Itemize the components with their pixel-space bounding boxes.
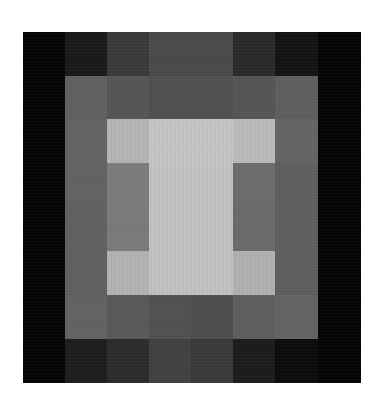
- grid-cell-r2-c7: [318, 119, 361, 163]
- grid-cell-r3-c1: [65, 163, 107, 207]
- grid-cell-r4-c2: [107, 207, 149, 251]
- grid-cell-r7-c5: [233, 339, 275, 383]
- grid-cell-r6-c4: [191, 295, 233, 339]
- grid-cell-r7-c2: [107, 339, 149, 383]
- grid-cell-r3-c0: [23, 163, 65, 207]
- grid-cell-r5-c6: [275, 251, 318, 295]
- grid-cell-r0-c3: [149, 32, 191, 76]
- grid-cell-r0-c2: [107, 32, 149, 76]
- grid-cell-r2-c4: [191, 119, 233, 163]
- grid-cell-r4-c3: [149, 207, 191, 251]
- grid-cell-r6-c5: [233, 295, 275, 339]
- grid-cell-r5-c5: [233, 251, 275, 295]
- grid-cell-r7-c6: [275, 339, 318, 383]
- grid-cell-r2-c3: [149, 119, 191, 163]
- grid-cell-r0-c6: [275, 32, 318, 76]
- grid-cell-r5-c2: [107, 251, 149, 295]
- grayscale-grid-artwork: [23, 32, 361, 383]
- grid-cell-r2-c1: [65, 119, 107, 163]
- grid-cell-r1-c3: [149, 76, 191, 119]
- grid-cell-r6-c7: [318, 295, 361, 339]
- grid-cell-r4-c1: [65, 207, 107, 251]
- grid-cell-r6-c6: [275, 295, 318, 339]
- grid-cell-r0-c4: [191, 32, 233, 76]
- grid-cell-r0-c7: [318, 32, 361, 76]
- grid-cell-r1-c6: [275, 76, 318, 119]
- grid-cell-r6-c2: [107, 295, 149, 339]
- grid-cell-r7-c0: [23, 339, 65, 383]
- grid-cell-r3-c2: [107, 163, 149, 207]
- grid-cell-r1-c5: [233, 76, 275, 119]
- grid-cell-r0-c1: [65, 32, 107, 76]
- grid-cell-r6-c3: [149, 295, 191, 339]
- grid-cell-r7-c3: [149, 339, 191, 383]
- grid-cell-r3-c4: [191, 163, 233, 207]
- grid-cell-r7-c1: [65, 339, 107, 383]
- grid-cell-r1-c2: [107, 76, 149, 119]
- grid-cell-r3-c7: [318, 163, 361, 207]
- grid-cell-r2-c0: [23, 119, 65, 163]
- grid-cell-r5-c3: [149, 251, 191, 295]
- grid-cell-r0-c5: [233, 32, 275, 76]
- grid-cell-r2-c2: [107, 119, 149, 163]
- grid-cell-r2-c6: [275, 119, 318, 163]
- grid-cell-r6-c0: [23, 295, 65, 339]
- grid-cell-r4-c4: [191, 207, 233, 251]
- grid-cell-r6-c1: [65, 295, 107, 339]
- grid-cell-r7-c7: [318, 339, 361, 383]
- grid-cell-r4-c7: [318, 207, 361, 251]
- grid-cell-r3-c3: [149, 163, 191, 207]
- grid-cell-r5-c4: [191, 251, 233, 295]
- grid-cell-r1-c4: [191, 76, 233, 119]
- canvas: [0, 0, 385, 411]
- grid-cell-r2-c5: [233, 119, 275, 163]
- grid-cell-r3-c5: [233, 163, 275, 207]
- grid-cell-r1-c1: [65, 76, 107, 119]
- grid-cell-r4-c0: [23, 207, 65, 251]
- grid-cell-r1-c7: [318, 76, 361, 119]
- grid-cell-r4-c6: [275, 207, 318, 251]
- grid-cell-r5-c0: [23, 251, 65, 295]
- grid-cell-r5-c7: [318, 251, 361, 295]
- grid-cell-r7-c4: [191, 339, 233, 383]
- grid-cell-r1-c0: [23, 76, 65, 119]
- grid-cell-r0-c0: [23, 32, 65, 76]
- grid-cell-r4-c5: [233, 207, 275, 251]
- grid-cell-r5-c1: [65, 251, 107, 295]
- grid-cell-r3-c6: [275, 163, 318, 207]
